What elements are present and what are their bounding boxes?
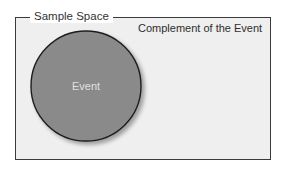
event-label: Event [56,80,116,93]
event-diagram [0,0,287,172]
